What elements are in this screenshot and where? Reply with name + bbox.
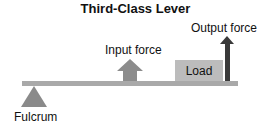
input-force-arrow-icon — [117, 59, 143, 81]
fulcrum-label: Fulcrum — [14, 110, 57, 124]
fulcrum-triangle-icon — [21, 86, 47, 107]
output-force-arrow-icon — [220, 36, 234, 81]
